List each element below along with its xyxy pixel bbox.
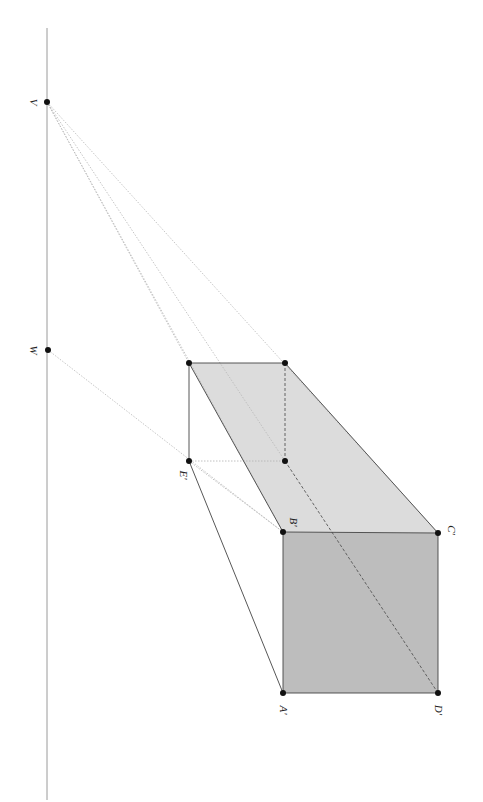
point-d: [435, 690, 441, 696]
label-e: E': [178, 469, 190, 480]
label-v: V: [28, 99, 40, 107]
perspective-diagram: V W E' B' C' A' D': [0, 0, 483, 802]
point-b: [280, 529, 286, 535]
label-b: B': [288, 517, 300, 527]
label-c: C': [446, 525, 458, 535]
point-c: [435, 530, 441, 536]
top-face: [189, 363, 438, 533]
point-e: [186, 458, 192, 464]
point-top-right: [282, 360, 288, 366]
point-a: [280, 690, 286, 696]
label-w: W: [28, 345, 40, 355]
point-w: [45, 347, 51, 353]
front-face: [283, 532, 438, 693]
label-d: D': [433, 704, 445, 716]
point-top-left: [186, 360, 192, 366]
label-a: A': [278, 704, 290, 715]
point-hidden: [282, 458, 288, 464]
point-v: [44, 99, 50, 105]
